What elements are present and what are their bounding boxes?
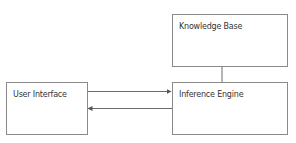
knowledge-base-label: Knowledge Base xyxy=(179,22,242,31)
user-interface-node: User Interface xyxy=(6,82,88,135)
inference-engine-node: Inference Engine xyxy=(172,82,288,135)
knowledge-base-node: Knowledge Base xyxy=(172,14,288,67)
inference-engine-label: Inference Engine xyxy=(179,90,243,99)
user-interface-label: User Interface xyxy=(13,90,67,99)
